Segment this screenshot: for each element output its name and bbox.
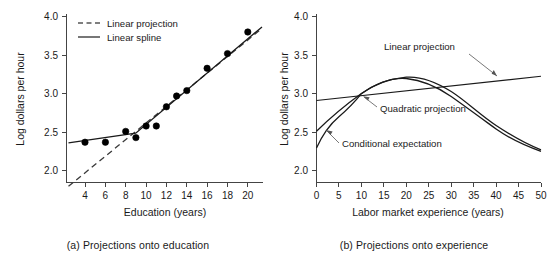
x-axis-ticks — [85, 183, 248, 188]
legend-label-linear-spline: Linear spline — [107, 32, 161, 43]
chart-education: 4.0 3.5 3.0 2.5 2.0 4 6 8 — [0, 0, 276, 230]
x-tick-label: 20 — [401, 190, 413, 201]
y-tick-label: 2.0 — [294, 165, 308, 176]
data-point — [184, 87, 190, 93]
data-point — [224, 50, 230, 56]
x-tick-label: 10 — [141, 190, 153, 201]
x-tick-label: 18 — [222, 190, 234, 201]
series-linear-spline — [69, 27, 263, 143]
x-tick-label: 12 — [161, 190, 173, 201]
x-tick-label: 5 — [336, 190, 342, 201]
y-axis-ticks — [62, 17, 67, 171]
annotation-conditional-expectation: Conditional expectation — [342, 138, 442, 149]
x-tick-label: 4 — [82, 190, 88, 201]
data-point — [204, 65, 210, 71]
x-axis-ticks — [317, 183, 542, 188]
x-tick-label: 16 — [202, 190, 214, 201]
panel-projections-onto-experience: 4.0 3.5 3.0 2.5 2.0 0 — [276, 0, 552, 263]
x-tick-label: 40 — [491, 190, 503, 201]
data-point — [143, 123, 149, 129]
panel-projections-onto-education: 4.0 3.5 3.0 2.5 2.0 4 6 8 — [0, 0, 276, 263]
data-point — [245, 29, 251, 35]
y-tick-label: 4.0 — [44, 11, 58, 22]
x-axis-title: Education (years) — [124, 206, 206, 218]
y-axis-tick-labels: 4.0 3.5 3.0 2.5 2.0 — [44, 11, 58, 176]
x-tick-label: 35 — [468, 190, 480, 201]
y-tick-label: 3.5 — [44, 50, 58, 61]
chart-experience: 4.0 3.5 3.0 2.5 2.0 0 — [276, 0, 552, 230]
y-tick-label: 4.0 — [294, 11, 308, 22]
data-point — [123, 128, 129, 134]
x-tick-label: 30 — [446, 190, 458, 201]
x-tick-label: 6 — [103, 190, 109, 201]
data-points-education — [82, 29, 251, 146]
x-tick-label: 15 — [378, 190, 390, 201]
x-tick-label: 0 — [314, 190, 320, 201]
y-axis-title: Log dollars per hour — [278, 52, 290, 146]
y-tick-label: 3.5 — [294, 50, 308, 61]
legend-education: Linear projection Linear spline — [78, 18, 178, 43]
x-tick-label: 50 — [535, 190, 547, 201]
y-axis-tick-labels: 4.0 3.5 3.0 2.5 2.0 — [294, 11, 308, 176]
x-tick-label: 14 — [181, 190, 193, 201]
y-tick-label: 2.5 — [44, 127, 58, 138]
x-tick-label: 10 — [356, 190, 368, 201]
data-point — [82, 139, 88, 145]
x-tick-label: 25 — [423, 190, 435, 201]
x-tick-label: 20 — [242, 190, 254, 201]
y-tick-label: 3.0 — [294, 88, 308, 99]
data-point — [163, 104, 169, 110]
y-axis-ticks — [312, 17, 317, 171]
annotation-linear-projection: Linear projection — [384, 41, 455, 52]
y-tick-label: 2.0 — [44, 165, 58, 176]
panel-a-caption: (a) Projections onto education — [0, 239, 276, 251]
x-tick-label: 45 — [513, 190, 525, 201]
y-tick-label: 2.5 — [294, 127, 308, 138]
annotation-quadratic-projection: Quadratic projection — [380, 103, 466, 114]
legend-label-linear-projection: Linear projection — [107, 18, 178, 29]
leader-linear-projection — [469, 54, 497, 76]
x-axis-tick-labels: 0 5 10 15 20 25 30 35 40 45 50 — [314, 190, 547, 201]
data-point — [153, 123, 159, 129]
data-point — [133, 134, 139, 140]
x-tick-label: 8 — [123, 190, 129, 201]
data-point — [173, 93, 179, 99]
x-axis-tick-labels: 4 6 8 10 12 14 16 18 20 — [82, 190, 254, 201]
x-axis-title: Labor market experience (years) — [352, 206, 504, 218]
y-axis-title: Log dollars per hour — [14, 52, 26, 146]
y-tick-label: 3.0 — [44, 88, 58, 99]
data-point — [102, 139, 108, 145]
leader-quadratic-projection — [363, 96, 377, 107]
leader-conditional-expectation — [326, 130, 339, 143]
figure-container: 4.0 3.5 3.0 2.5 2.0 4 6 8 — [0, 0, 552, 263]
panel-b-caption: (b) Projections onto experience — [276, 239, 552, 251]
